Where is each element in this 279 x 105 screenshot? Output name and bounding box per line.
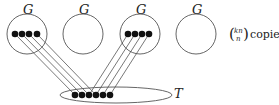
binomial-close-paren: ) — [243, 25, 249, 43]
vertex-dot — [26, 31, 33, 38]
target-vertex-set — [72, 92, 114, 99]
binomial-bottom: n — [236, 35, 241, 43]
target-set: T — [60, 86, 184, 103]
copies-label: ( kn n ) copies — [229, 25, 279, 43]
vertex-dot — [125, 31, 132, 38]
graph-copy-3: G — [120, 2, 160, 54]
binomial-top: kn — [234, 27, 243, 35]
vertex-dot — [139, 31, 146, 38]
edge-line — [22, 34, 82, 95]
graph-copy-4: G — [176, 2, 216, 54]
graph-circle — [63, 14, 103, 54]
vertex-dot — [107, 92, 114, 99]
edge-line — [29, 34, 89, 95]
vertex-dot — [93, 92, 100, 99]
connection-lines — [15, 34, 149, 95]
vertex-dot — [19, 31, 26, 38]
copies-text: copies — [250, 28, 279, 41]
vertex-dot — [132, 31, 139, 38]
vertex-set — [12, 31, 41, 38]
vertex-dot — [34, 31, 41, 38]
vertex-dot — [12, 31, 19, 38]
vertex-dot — [100, 92, 107, 99]
diagram: G G G G ( kn n ) copies T — [0, 0, 279, 105]
vertex-dot — [146, 31, 153, 38]
target-label: T — [174, 86, 184, 101]
graph-copy-2: G — [63, 2, 103, 54]
vertex-dot — [79, 92, 86, 99]
graph-circle — [176, 14, 216, 54]
vertex-dot — [86, 92, 93, 99]
vertex-dot — [72, 92, 79, 99]
vertex-set — [125, 31, 153, 38]
